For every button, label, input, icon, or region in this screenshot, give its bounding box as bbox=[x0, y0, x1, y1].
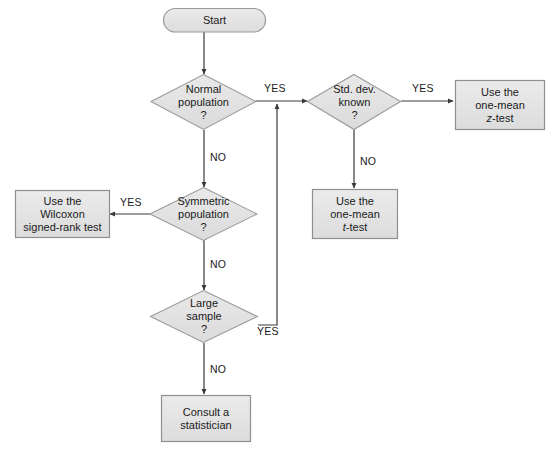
edge-label-stddev-no: NO bbox=[360, 155, 376, 167]
node-t-test-shape bbox=[313, 190, 398, 239]
node-z-test-shape bbox=[456, 81, 545, 130]
edge-label-symmetric-yes: YES bbox=[120, 196, 142, 208]
node-large-sample-shape bbox=[151, 291, 258, 343]
connector-large-yes-to-junction bbox=[258, 104, 277, 325]
node-wilcoxon-shape bbox=[16, 191, 110, 238]
edge-label-stddev-yes: YES bbox=[412, 82, 434, 94]
edge-label-large-yes: YES bbox=[257, 325, 279, 337]
node-std-dev-known-shape bbox=[308, 75, 401, 130]
flowchart-canvas: Start Normal population ? Std. dev. know… bbox=[0, 0, 558, 458]
edge-label-large-no: NO bbox=[210, 363, 226, 375]
node-start-shape bbox=[164, 9, 266, 33]
node-consult-shape bbox=[162, 396, 251, 442]
edge-label-normal-no: NO bbox=[210, 151, 226, 163]
flowchart-shapes-layer bbox=[0, 0, 558, 458]
node-symmetric-population-shape bbox=[150, 188, 257, 241]
node-normal-population-shape bbox=[151, 75, 256, 130]
edge-label-symmetric-no: NO bbox=[210, 258, 226, 270]
edge-label-normal-yes: YES bbox=[264, 82, 286, 94]
